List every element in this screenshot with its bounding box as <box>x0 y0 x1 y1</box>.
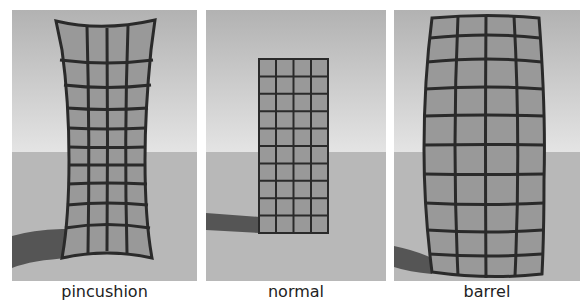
normal-panel <box>206 10 386 281</box>
normal-image <box>206 10 386 281</box>
normal-caption: normal <box>206 282 386 301</box>
pincushion-caption: pincushion <box>12 282 197 301</box>
pincushion-image <box>12 10 197 281</box>
barrel-image <box>394 10 580 281</box>
barrel-panel <box>394 10 580 281</box>
pincushion-panel <box>12 10 197 281</box>
barrel-caption: barrel <box>394 282 580 301</box>
